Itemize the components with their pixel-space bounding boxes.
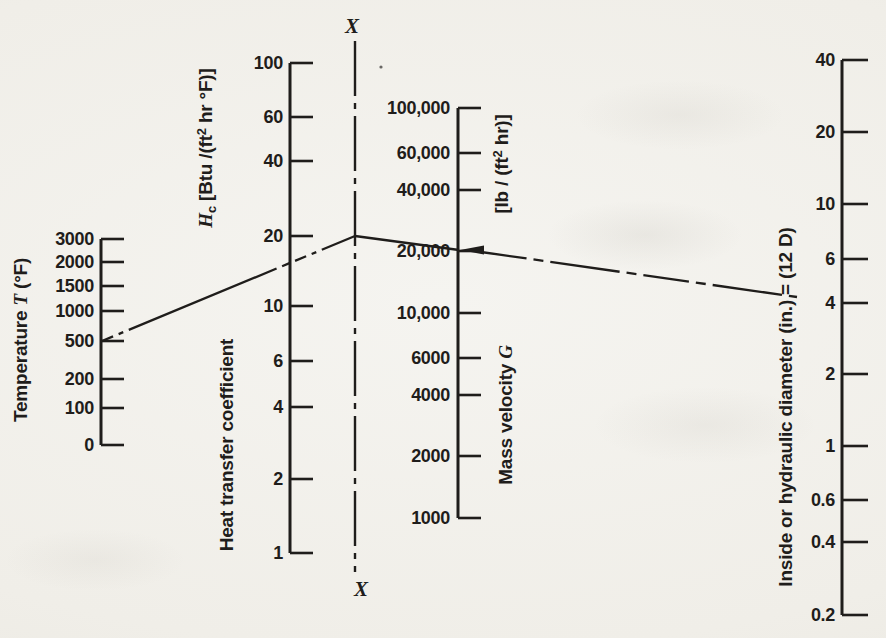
temperature-axis-title-label: Temperature T (°F) — [10, 258, 31, 422]
hc-tick-label: 40 — [264, 151, 284, 171]
temperature-scale: 30002000150010005002001000Temperature T … — [10, 229, 124, 455]
scan-speck — [379, 65, 382, 68]
temperature-tick-label: 1000 — [55, 301, 94, 321]
hc-tick-label: 10 — [264, 296, 284, 316]
reference-line-top-label: X — [344, 14, 360, 38]
hc-axis-unit-label: Hc [Btu /(ft2 hr °F)] — [194, 68, 219, 228]
reference-line-xx: XX — [344, 14, 369, 601]
temperature-tick-label: 2000 — [55, 252, 94, 272]
hc-tick-label: 100 — [254, 53, 283, 73]
hc-scale: 100604020106421Hc [Btu /(ft2 hr °F)]Heat… — [194, 53, 313, 563]
g-tick-label: 100,000 — [387, 98, 450, 118]
temperature-tick-label: 3000 — [55, 229, 94, 249]
d-axis-title-label: Inside or hydraulic diameter (in.) = (12… — [775, 227, 796, 586]
d-tick-label: 40 — [816, 50, 836, 70]
g-tick-label: 2000 — [411, 446, 450, 466]
d-scale: 40201064210.60.40.2Inside or hydraulic d… — [775, 50, 868, 625]
d-tick-label: 4 — [825, 293, 835, 313]
hc-axis-name-label: Heat transfer coefficient — [216, 338, 237, 551]
g-tick-label: 60,000 — [397, 143, 451, 163]
temperature-tick-label: 0 — [84, 435, 94, 455]
g-axis-unit-label: [lb / (ft2 hr)] — [490, 114, 512, 213]
index-line-mass-velocity-to-diameter — [481, 252, 797, 297]
d-tick-label: 0.6 — [811, 490, 835, 510]
d-tick-label: 20 — [816, 122, 836, 142]
g-axis-name-label: Mass velocity G — [495, 345, 516, 485]
g-tick-label: 4000 — [411, 385, 450, 405]
nomogram-canvas: 30002000150010005002001000Temperature T … — [0, 0, 886, 638]
hc-tick-label: 60 — [264, 107, 284, 127]
g-tick-label: 20,000 — [397, 241, 451, 261]
g-tick-label: 10,000 — [397, 303, 451, 323]
nomogram-figure: 30002000150010005002001000Temperature T … — [0, 0, 886, 638]
g-tick-label: 6000 — [411, 348, 450, 368]
d-tick-label: 10 — [816, 194, 836, 214]
temperature-tick-label: 500 — [65, 331, 94, 351]
hc-tick-label: 20 — [264, 226, 284, 246]
index-line-temperature-to-pivot — [102, 236, 355, 341]
d-tick-label: 0.4 — [811, 532, 835, 552]
reference-line-bottom-label: X — [353, 577, 369, 601]
hc-tick-label: 6 — [273, 351, 283, 371]
d-tick-label: 6 — [825, 249, 835, 269]
d-tick-label: 0.2 — [811, 605, 835, 625]
d-tick-label: 1 — [825, 436, 835, 456]
d-tick-label: 2 — [825, 364, 835, 384]
temperature-tick-label: 200 — [65, 369, 94, 389]
g-tick-label: 40,000 — [397, 180, 451, 200]
g-tick-label: 1000 — [411, 508, 450, 528]
mass-velocity-arrowhead — [460, 246, 484, 255]
g-scale: 100,00060,00040,00020,00010,000600040002… — [387, 98, 516, 528]
temperature-tick-label: 1500 — [55, 276, 94, 296]
hc-tick-label: 1 — [273, 543, 283, 563]
hc-tick-label: 2 — [273, 469, 283, 489]
temperature-tick-label: 100 — [65, 398, 94, 418]
hc-tick-label: 4 — [273, 397, 283, 417]
